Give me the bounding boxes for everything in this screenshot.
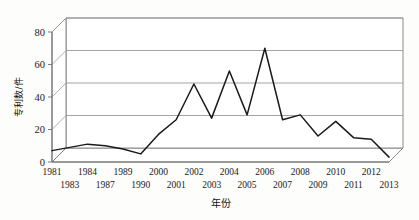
y-axis-title: 专利数/件	[13, 77, 24, 116]
x-axis-tick-label: 2002	[184, 167, 203, 177]
x-axis-tick-label: 2007	[273, 180, 292, 190]
x-axis-tick-label: 2013	[380, 180, 399, 190]
x-axis-tick-label: 2011	[344, 180, 363, 190]
y-axis-tick-label: 20	[35, 124, 46, 135]
x-axis-tick-label: 1989	[113, 167, 132, 177]
y-axis-tick-label: 40	[35, 92, 46, 103]
y-axis-tick-label: 80	[35, 27, 46, 38]
x-axis-tick-label: 2004	[220, 167, 239, 177]
patent-count-line-chart: 0204060801981198419892000200220042006200…	[0, 0, 419, 220]
floor-plane	[52, 148, 403, 162]
x-axis-tick-label: 1984	[78, 167, 97, 177]
x-axis-tick-label: 2000	[149, 167, 168, 177]
x-axis-tick-label: 2006	[255, 167, 274, 177]
y-axis-tick-label: 60	[35, 59, 46, 70]
x-axis-title: 年份	[211, 197, 231, 209]
x-axis-tick-label: 1990	[131, 180, 150, 190]
chart-canvas: 0204060801981198419892000200220042006200…	[0, 0, 419, 220]
x-axis-tick-label: 2008	[291, 167, 310, 177]
x-axis-tick-label: 2003	[202, 180, 221, 190]
x-axis-tick-label: 2001	[167, 180, 186, 190]
x-axis-tick-label: 2009	[309, 180, 328, 190]
x-axis-tick-label: 2005	[238, 180, 257, 190]
x-axis-tick-label: 1983	[60, 180, 79, 190]
x-axis-tick-label: 1981	[43, 167, 62, 177]
y-axis-tick-label: 0	[40, 157, 45, 168]
x-axis-tick-label: 2012	[362, 167, 381, 177]
x-axis-tick-label: 2010	[326, 167, 345, 177]
x-axis-tick-label: 1987	[96, 180, 115, 190]
